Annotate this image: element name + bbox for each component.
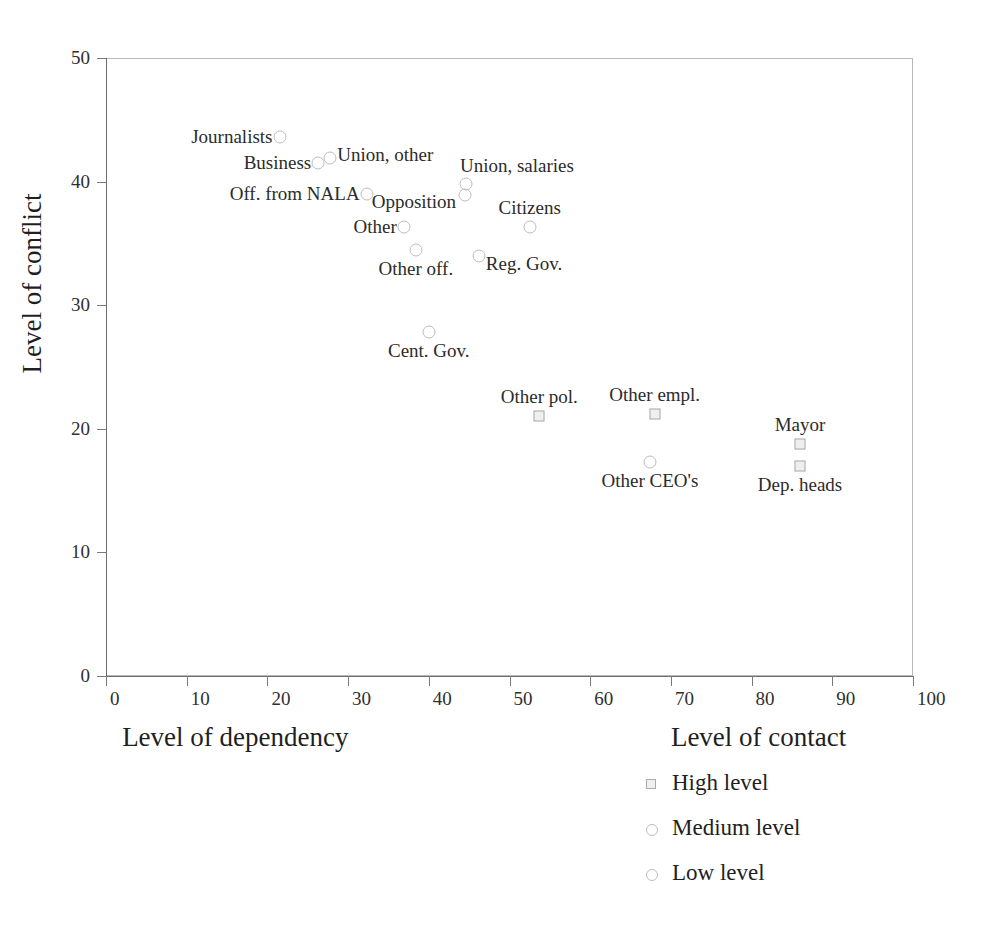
- data-point-label: Other: [354, 217, 397, 236]
- x-tick-mark: [348, 676, 349, 686]
- y-tick-mark: [97, 305, 106, 306]
- data-point-label: Journalists: [191, 127, 272, 146]
- x-tick-label: 80: [756, 688, 775, 710]
- data-point-marker: [649, 408, 660, 419]
- x-tick-mark: [187, 676, 188, 686]
- legend-label: High level: [672, 770, 768, 796]
- x-tick-mark: [832, 676, 833, 686]
- data-point-label: Mayor: [775, 415, 826, 434]
- x-tick-label: 20: [271, 688, 290, 710]
- data-point-label: Union, other: [337, 145, 433, 164]
- data-point-marker: [422, 326, 435, 339]
- y-tick-label: 30: [71, 294, 90, 316]
- data-point-marker: [523, 221, 536, 234]
- data-point-label: Other CEO's: [601, 471, 698, 490]
- data-point-marker: [472, 249, 485, 262]
- y-tick-label: 0: [81, 665, 91, 687]
- data-point-marker: [795, 460, 806, 471]
- data-point-label: Reg. Gov.: [486, 253, 562, 272]
- data-point-label: Union, salaries: [460, 156, 574, 175]
- legend-item[interactable]: Low level: [646, 860, 906, 905]
- y-tick-label: 20: [71, 418, 90, 440]
- data-point-label: Other pol.: [501, 387, 578, 406]
- y-tick-mark: [97, 429, 106, 430]
- x-tick-mark: [510, 676, 511, 686]
- data-point-label: Cent. Gov.: [388, 341, 470, 360]
- x-tick-mark: [752, 676, 753, 686]
- data-point-label: Off. from NALA: [230, 183, 360, 202]
- x-tick-label: 70: [675, 688, 694, 710]
- x-tick-mark: [913, 676, 914, 686]
- y-tick-label: 40: [71, 171, 90, 193]
- data-point-marker: [459, 189, 472, 202]
- data-point-marker: [643, 456, 656, 469]
- data-point-label: Other empl.: [609, 385, 700, 404]
- legend-item[interactable]: Medium level: [646, 815, 906, 860]
- y-axis-title: Level of conflict: [17, 134, 48, 434]
- y-tick-mark: [97, 182, 106, 183]
- legend-circle-icon: [646, 824, 658, 836]
- legend-item[interactable]: High level: [646, 770, 906, 815]
- data-point-marker: [324, 152, 337, 165]
- plot-area: [106, 58, 913, 676]
- x-tick-label: 10: [191, 688, 210, 710]
- y-axis-line: [106, 58, 107, 677]
- x-axis-title-contact: Level of contact: [671, 722, 846, 753]
- data-point-marker: [795, 438, 806, 449]
- data-point-marker: [409, 243, 422, 256]
- x-tick-mark: [106, 676, 107, 686]
- legend-square-icon: [646, 779, 656, 789]
- x-tick-label: 0: [110, 688, 120, 710]
- y-tick-label: 50: [71, 47, 90, 69]
- data-point-label: Dep. heads: [758, 475, 842, 494]
- x-axis-title-dependency: Level of dependency: [122, 722, 348, 753]
- data-point-label: Other off.: [379, 259, 454, 278]
- legend-circle-icon: [646, 869, 658, 881]
- data-point-marker: [534, 411, 545, 422]
- x-tick-mark: [671, 676, 672, 686]
- y-tick-label: 10: [71, 541, 90, 563]
- chart-legend: High levelMedium levelLow level: [646, 770, 906, 905]
- x-tick-label: 100: [917, 688, 946, 710]
- legend-label: Low level: [672, 860, 765, 886]
- y-tick-mark: [97, 676, 106, 677]
- scatter-chart: 01020304050 0102030405060708090100 Level…: [0, 0, 987, 928]
- x-tick-label: 90: [836, 688, 855, 710]
- x-tick-label: 60: [594, 688, 613, 710]
- data-point-marker: [397, 221, 410, 234]
- x-tick-mark: [590, 676, 591, 686]
- data-point-marker: [273, 131, 286, 144]
- x-tick-label: 30: [352, 688, 371, 710]
- y-tick-mark: [97, 552, 106, 553]
- data-point-label: Opposition: [372, 192, 456, 211]
- x-tick-label: 40: [433, 688, 452, 710]
- data-point-label: Citizens: [499, 198, 561, 217]
- data-point-label: Business: [244, 153, 312, 172]
- data-point-marker: [312, 157, 325, 170]
- x-tick-mark: [267, 676, 268, 686]
- x-tick-label: 50: [514, 688, 533, 710]
- y-tick-mark: [97, 58, 106, 59]
- x-tick-mark: [429, 676, 430, 686]
- legend-label: Medium level: [672, 815, 800, 841]
